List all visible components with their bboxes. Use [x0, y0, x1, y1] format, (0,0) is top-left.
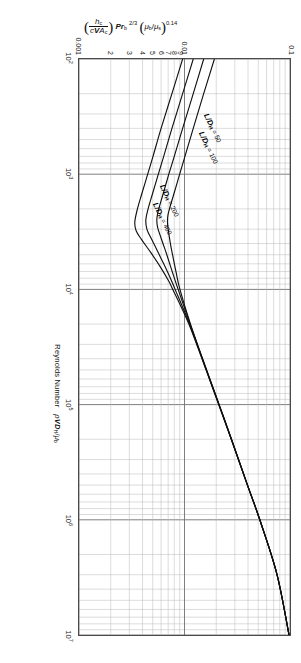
chart-plot-wrapper: 102103104105106107 0.10.01987654320.001 …	[0, 0, 301, 663]
y-axis-title: (hccVAc) Prb 2/3 (μb/μs)0.14	[84, 18, 177, 36]
data-curves	[79, 59, 290, 635]
x-tick-1000000: 106	[64, 515, 75, 526]
rotated-chart-canvas: 102103104105106107 0.10.01987654320.001 …	[0, 0, 301, 663]
plot-area	[78, 58, 291, 636]
curve-l-dh-50	[167, 59, 289, 635]
x-axis-title: Reynolds Number ρVDH/μb	[53, 344, 62, 443]
y-pr-exp: 2/3	[129, 20, 137, 26]
y-A-sub: c	[105, 29, 108, 35]
y-fraction: hccVAc	[89, 18, 108, 35]
x-tick-1000: 103	[64, 168, 75, 179]
x-tick-100000: 105	[64, 399, 75, 410]
y-mu-b-sub: b	[149, 25, 152, 31]
y-paren-close: )	[108, 19, 113, 35]
x-tick-10000000: 107	[64, 630, 75, 641]
curve-l-dh-200	[146, 59, 289, 635]
x-tick-10000: 104	[64, 283, 75, 294]
y-mu-exp: 0.14	[166, 20, 177, 26]
y-pr-sub: b	[124, 25, 127, 31]
y-tick-0p1: 0.1	[288, 29, 295, 55]
y-pr: Pr	[116, 22, 124, 31]
x-axis-title-words: Reynolds Number	[53, 344, 62, 407]
x-tick-100: 102	[64, 52, 75, 63]
y-tick-0p001: 0.001	[75, 29, 82, 55]
x-axis-mu-sub: b	[53, 440, 59, 443]
chart-frame: 102103104105106107 0.10.01987654320.001 …	[0, 0, 301, 663]
y-h-sub: c	[100, 20, 103, 26]
